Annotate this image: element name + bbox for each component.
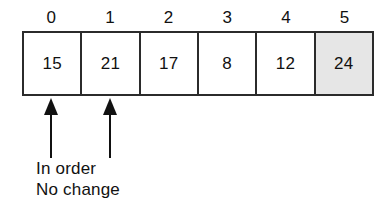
array-cell: 21 — [82, 33, 140, 94]
array-index-label: 5 — [315, 6, 374, 30]
array-index-label: 2 — [139, 6, 198, 30]
array-cell: 17 — [141, 33, 199, 94]
array-index-row: 0 1 2 3 4 5 — [22, 6, 374, 30]
array-index-label: 3 — [198, 6, 257, 30]
array-container: 15 21 17 8 12 24 — [22, 31, 374, 96]
array-index-label: 1 — [81, 6, 140, 30]
caption: In order No change — [36, 158, 236, 200]
array-cell-value: 17 — [159, 54, 179, 74]
arrow-shaft — [109, 113, 111, 158]
caption-line-1: In order — [36, 158, 236, 179]
array-index-label: 0 — [22, 6, 81, 30]
up-arrow-icon — [44, 98, 58, 158]
array-cell-value: 12 — [276, 54, 296, 74]
array-cell-value: 8 — [222, 54, 232, 74]
caption-line-2: No change — [36, 179, 236, 200]
arrow-shaft — [50, 113, 52, 158]
array-index-label: 4 — [257, 6, 316, 30]
array-diagram: 0 1 2 3 4 5 15 21 17 8 12 24 — [0, 0, 389, 218]
array-cell-highlighted: 24 — [316, 33, 372, 94]
array-cell: 15 — [24, 33, 82, 94]
up-arrow-icon — [103, 98, 117, 158]
array-cell-value: 24 — [334, 54, 354, 74]
array-cell: 12 — [257, 33, 315, 94]
array-cell: 8 — [199, 33, 257, 94]
array-cell-value: 15 — [42, 54, 62, 74]
array-cell-value: 21 — [101, 54, 121, 74]
